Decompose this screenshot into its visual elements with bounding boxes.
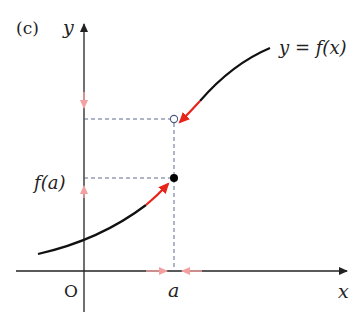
curve-label: y = f(x) (278, 37, 347, 58)
open-point (170, 115, 177, 122)
approach-arrow-right (180, 101, 200, 122)
panel-label: (c) (16, 18, 39, 38)
x-axis-label: x (338, 280, 349, 302)
a-tick-label: a (168, 279, 179, 301)
y-axis-label: y (62, 16, 74, 38)
filled-point (170, 174, 178, 182)
origin-label: O (64, 281, 78, 301)
approach-arrow-left (146, 184, 168, 205)
discontinuity-diagram: (c) y x O a f(a) y = f(x) (0, 0, 357, 320)
curve-right-piece (200, 48, 270, 101)
curve-left-piece (38, 205, 146, 254)
fa-label: f(a) (32, 172, 65, 193)
